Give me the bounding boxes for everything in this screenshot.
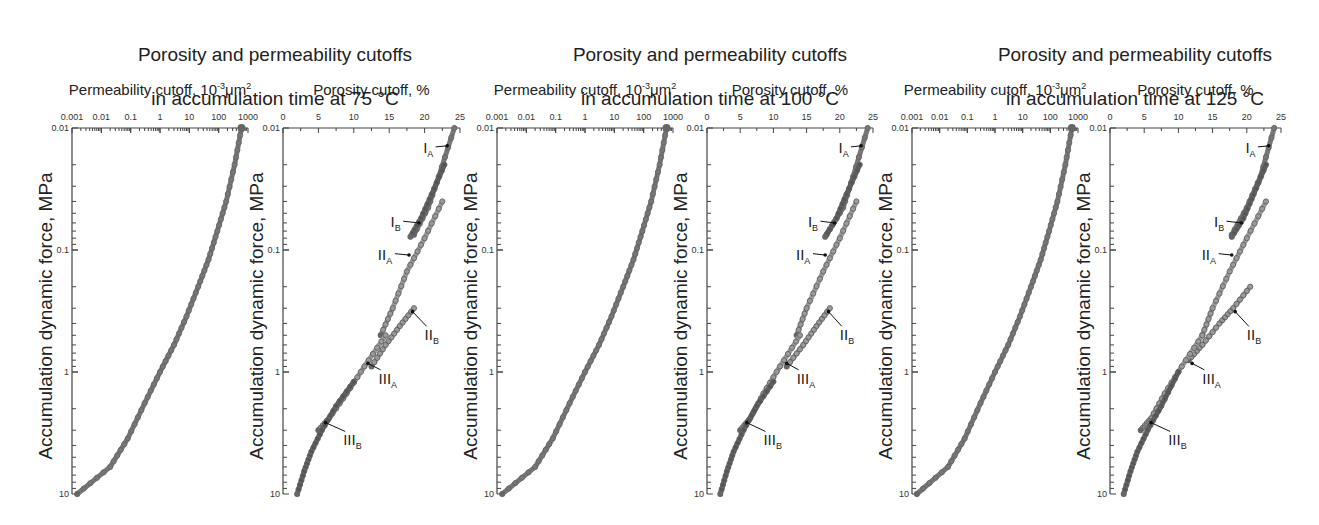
x-tick-label: 0 xyxy=(704,112,709,122)
annotation-label: IB xyxy=(1214,213,1224,233)
annotation-IIA: IIA xyxy=(1202,246,1234,266)
x-tick-label: 1000 xyxy=(1068,112,1088,122)
x-tick-label: 100 xyxy=(211,112,226,122)
x-tick-label: 25 xyxy=(868,112,878,122)
y-tick-label: 1 xyxy=(275,367,280,377)
chart-panel-1: 0.010.11100.0010.010.11101001000Permeabi… xyxy=(35,81,258,499)
data-marker xyxy=(717,491,723,497)
x-tick-label: 10 xyxy=(184,112,194,122)
y-tick-label: 0.1 xyxy=(896,245,909,255)
x-tick-label: 0 xyxy=(1107,112,1112,122)
annotation-IIA: IIA xyxy=(796,246,827,266)
data-marker xyxy=(914,491,920,497)
x-axis-title: Permeability cutoff, 10-3μm2 xyxy=(69,81,251,98)
chart-panel-6: 0.010.11100510152025Porosity cutoff, %Ac… xyxy=(1073,81,1286,499)
arrow-icon xyxy=(1151,423,1170,432)
x-tick-label: 10 xyxy=(1173,112,1183,122)
x-tick-label: 25 xyxy=(455,112,465,122)
x-axis-title: Permeability cutoff, 10-3μm2 xyxy=(494,81,676,98)
y-tick-label: 0.01 xyxy=(1089,123,1107,133)
y-axis-title: Accumulation dynamic force, MPa xyxy=(35,172,56,460)
data-marker xyxy=(1138,427,1144,433)
data-marker xyxy=(74,491,80,497)
annotation-label: IA xyxy=(838,139,848,159)
x-axis-title: Porosity cutoff, % xyxy=(313,81,429,98)
x-tick-label: 0.01 xyxy=(931,112,949,122)
x-tick-label: 0.1 xyxy=(549,112,562,122)
x-tick-label: 15 xyxy=(1208,112,1218,122)
y-tick-label: 0.01 xyxy=(686,123,704,133)
x-tick-label: 0 xyxy=(280,112,285,122)
y-tick-label: 1 xyxy=(904,367,909,377)
x-tick-label: 20 xyxy=(420,112,430,122)
annotation-IIIB: IIIB xyxy=(1149,421,1186,452)
data-marker xyxy=(499,491,505,497)
x-tick-label: 10 xyxy=(609,112,619,122)
data-marker xyxy=(1229,234,1235,240)
y-axis-title: Accumulation dynamic force, MPa xyxy=(670,172,691,460)
x-tick-label: 1 xyxy=(157,112,162,122)
annotation-label: IIB xyxy=(1247,326,1261,346)
annotation-IIB: IIB xyxy=(411,310,439,346)
chart-panel-4: 0.010.11100510152025Porosity cutoff, %Ac… xyxy=(670,81,878,499)
annotation-IIB: IIB xyxy=(827,310,854,346)
x-tick-label: 15 xyxy=(802,112,812,122)
x-tick-label: 15 xyxy=(384,112,394,122)
y-tick-label: 1 xyxy=(699,367,704,377)
data-marker xyxy=(662,124,670,132)
annotation-label: IIIB xyxy=(1168,431,1187,451)
x-tick-label: 0.01 xyxy=(93,112,111,122)
annotation-label: IB xyxy=(391,213,401,233)
y-tick-label: 10 xyxy=(694,489,704,499)
arrow-icon xyxy=(1192,363,1204,369)
x-tick-label: 100 xyxy=(636,112,651,122)
x-axis-title: Permeability cutoff, 10-3μm2 xyxy=(904,81,1086,98)
x-tick-label: 1 xyxy=(992,112,997,122)
x-tick-label: 10 xyxy=(768,112,778,122)
annotation-label: IIIA xyxy=(797,370,816,390)
data-marker xyxy=(1121,491,1127,497)
x-tick-label: 5 xyxy=(738,112,743,122)
x-tick-label: 0.001 xyxy=(901,112,924,122)
annotation-label: IB xyxy=(808,213,818,233)
y-tick-label: 0.01 xyxy=(262,123,280,133)
y-tick-label: 10 xyxy=(59,489,69,499)
arrow-icon xyxy=(1219,254,1232,255)
x-tick-label: 100 xyxy=(1043,112,1058,122)
y-tick-label: 10 xyxy=(899,489,909,499)
annotation-IIA: IIA xyxy=(378,246,411,266)
arrow-icon xyxy=(413,312,427,327)
x-tick-label: 0.001 xyxy=(61,112,84,122)
x-tick-label: 10 xyxy=(349,112,359,122)
annotation-label: IIIB xyxy=(763,431,782,451)
annotation-label: IIA xyxy=(796,246,810,266)
data-marker xyxy=(294,491,300,497)
arrow-icon xyxy=(829,312,842,327)
x-axis-title: Porosity cutoff, % xyxy=(1137,81,1253,98)
x-tick-label: 0.1 xyxy=(124,112,137,122)
annotation-label: IIIA xyxy=(1202,370,1221,390)
y-axis-title: Accumulation dynamic force, MPa xyxy=(875,172,896,460)
data-marker xyxy=(237,124,245,132)
chart-panel-3: 0.010.11100.0010.010.11101001000Permeabi… xyxy=(460,81,683,499)
arrow-icon xyxy=(813,254,825,255)
series-line-IB xyxy=(1232,165,1266,237)
y-tick-label: 10 xyxy=(1097,489,1107,499)
annotation-label: IA xyxy=(1245,139,1255,159)
y-tick-label: 10 xyxy=(484,489,494,499)
x-tick-label: 0.001 xyxy=(486,112,509,122)
annotation-IIIB: IIIB xyxy=(324,421,362,452)
x-tick-label: 20 xyxy=(1242,112,1252,122)
x-tick-label: 0.01 xyxy=(518,112,536,122)
figure-canvas: 0.010.11100.0010.010.11101001000Permeabi… xyxy=(0,0,1319,525)
x-tick-label: 5 xyxy=(1142,112,1147,122)
series-line-Permeability cutoff xyxy=(77,128,241,494)
annotation-label: IIB xyxy=(840,326,854,346)
data-marker xyxy=(407,234,413,240)
arrow-icon xyxy=(325,423,345,432)
x-tick-label: 0.1 xyxy=(961,112,974,122)
x-tick-label: 5 xyxy=(316,112,321,122)
data-marker xyxy=(1068,124,1076,132)
y-tick-label: 0.1 xyxy=(691,245,704,255)
y-tick-label: 0.01 xyxy=(476,123,494,133)
